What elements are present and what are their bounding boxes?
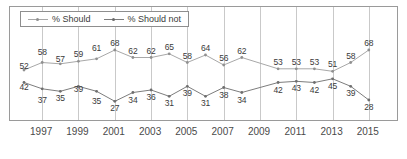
data-label: 42 xyxy=(19,83,28,92)
data-label: 52 xyxy=(19,62,28,71)
data-point xyxy=(150,56,153,59)
data-label: 38 xyxy=(219,91,228,100)
legend-swatch-should-icon xyxy=(28,16,48,23)
data-label: 37 xyxy=(38,96,47,105)
legend-swatch-should-not-icon xyxy=(104,16,124,23)
data-point xyxy=(95,90,98,93)
data-point xyxy=(186,85,189,88)
data-label: 59 xyxy=(74,50,83,59)
data-point xyxy=(331,70,334,73)
data-point xyxy=(204,95,207,98)
data-label: 34 xyxy=(128,96,137,105)
data-point xyxy=(222,86,225,89)
x-tick-1999: 1999 xyxy=(66,126,88,137)
data-label: 57 xyxy=(56,55,65,64)
data-label: 56 xyxy=(219,54,228,63)
data-label: 68 xyxy=(110,39,119,48)
x-tick-2015: 2015 xyxy=(357,126,379,137)
data-point xyxy=(295,67,298,70)
data-label: 62 xyxy=(237,47,246,56)
data-point xyxy=(59,90,62,93)
data-point xyxy=(204,54,207,57)
data-point xyxy=(168,52,171,55)
data-point xyxy=(277,81,280,84)
x-tick-2009: 2009 xyxy=(248,126,270,137)
data-point xyxy=(331,77,334,80)
x-tick-2003: 2003 xyxy=(139,126,161,137)
data-label: 62 xyxy=(147,47,156,56)
data-label: 43 xyxy=(292,84,301,93)
data-point xyxy=(222,64,225,67)
legend-label-should: % Should xyxy=(52,14,91,24)
legend-item-should-not: % Should not xyxy=(104,14,182,24)
data-label: 42 xyxy=(274,86,283,95)
data-label: 31 xyxy=(201,99,210,108)
data-point xyxy=(240,56,243,59)
x-tick-2005: 2005 xyxy=(175,126,197,137)
data-point xyxy=(95,57,98,60)
data-label: 28 xyxy=(364,103,373,112)
data-point xyxy=(240,91,243,94)
data-label: 36 xyxy=(147,93,156,102)
data-label: 45 xyxy=(328,82,337,91)
data-point xyxy=(186,61,189,64)
data-point xyxy=(367,49,370,52)
x-tick-2007: 2007 xyxy=(212,126,234,137)
data-label: 58 xyxy=(346,52,355,61)
data-label: 35 xyxy=(92,97,101,106)
data-point xyxy=(313,81,316,84)
data-label: 27 xyxy=(110,104,119,113)
x-tick-1997: 1997 xyxy=(30,126,52,137)
data-label: 64 xyxy=(201,44,210,53)
data-point xyxy=(132,56,135,59)
data-label: 65 xyxy=(165,43,174,52)
data-label: 53 xyxy=(310,58,319,67)
x-axis: 1997199920012003200520072009201120132015 xyxy=(9,124,398,142)
data-label: 31 xyxy=(165,99,174,108)
data-label: 61 xyxy=(92,44,101,53)
legend-item-should: % Should xyxy=(28,14,91,24)
data-point xyxy=(349,85,352,88)
data-point xyxy=(41,61,44,64)
data-point xyxy=(132,91,135,94)
data-point xyxy=(313,67,316,70)
chart-legend: % Should % Should not xyxy=(20,11,189,27)
data-label: 39 xyxy=(74,85,83,94)
data-point xyxy=(77,60,80,63)
data-label: 51 xyxy=(328,60,337,69)
chart-container: 5258575961686262655864566253535351586842… xyxy=(0,0,407,159)
data-point xyxy=(277,67,280,70)
x-tick-2013: 2013 xyxy=(320,126,342,137)
data-point xyxy=(295,80,298,83)
data-point xyxy=(41,87,44,90)
data-label: 39 xyxy=(183,89,192,98)
data-point xyxy=(113,100,116,103)
data-point xyxy=(113,49,116,52)
data-label: 58 xyxy=(38,48,47,57)
data-label: 42 xyxy=(310,86,319,95)
data-point xyxy=(168,95,171,98)
legend-label-should-not: % Should not xyxy=(128,14,182,24)
data-label: 68 xyxy=(364,39,373,48)
data-label: 62 xyxy=(128,47,137,56)
data-label: 39 xyxy=(346,89,355,98)
data-point xyxy=(367,99,370,102)
data-point xyxy=(150,89,153,92)
data-label: 53 xyxy=(292,58,301,67)
data-label: 58 xyxy=(183,52,192,61)
data-label: 34 xyxy=(237,96,246,105)
x-tick-2011: 2011 xyxy=(285,126,307,137)
data-label: 53 xyxy=(274,58,283,67)
data-point xyxy=(349,61,352,64)
data-label: 35 xyxy=(56,94,65,103)
x-tick-2001: 2001 xyxy=(103,126,125,137)
